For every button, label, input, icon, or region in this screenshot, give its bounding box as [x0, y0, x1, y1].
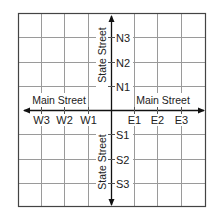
label-e2: E2: [151, 114, 164, 126]
label-s2: S2: [116, 154, 129, 166]
main-street-label-west: Main Street: [32, 94, 86, 106]
state-street-label-north: State Street: [96, 27, 108, 83]
label-w1: W1: [80, 114, 97, 126]
street-grid-diagram: Main Street Main Street State Street Sta…: [0, 0, 213, 221]
label-n2: N2: [116, 57, 130, 69]
state-street-label-south: State Street: [96, 134, 108, 190]
label-n1: N1: [116, 81, 130, 93]
label-s1: S1: [116, 129, 129, 141]
label-e1: E1: [128, 114, 141, 126]
label-n3: N3: [116, 32, 130, 44]
label-w2: W2: [56, 114, 73, 126]
label-s3: S3: [116, 178, 129, 190]
label-w3: W3: [33, 114, 50, 126]
label-e3: E3: [175, 114, 188, 126]
main-street-label-east: Main Street: [136, 94, 190, 106]
